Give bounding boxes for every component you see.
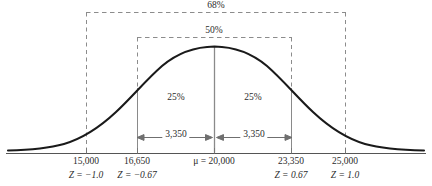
normal-curve (8, 47, 424, 151)
z-label-plus-1: Z = 1.0 (331, 171, 359, 181)
axis-tick-marks (87, 148, 346, 154)
distance-label-left: 3,350 (162, 130, 189, 140)
normal-distribution-figure: 68% 50% 25% 25% 3,350 3,350 15,000 16,65… (0, 0, 432, 186)
axis-tick-label-25000: 25,000 (332, 157, 358, 167)
axis-tick-label-15000: 15,000 (73, 157, 99, 167)
z-label-minus-067: Z = −0.67 (117, 171, 156, 181)
region-label-left-25: 25% (167, 93, 184, 103)
mean-label: μ = 20,000 (193, 157, 234, 167)
distance-label-right: 3,350 (240, 130, 267, 140)
bracket-label-68: 68% (207, 1, 224, 11)
z-label-minus-1: Z = −1.0 (69, 171, 104, 181)
axis-tick-label-23350: 23,350 (278, 157, 304, 167)
z-label-plus-067: Z = 0.67 (274, 171, 307, 181)
axis-tick-label-16650: 16,650 (124, 157, 150, 167)
region-label-right-25: 25% (244, 93, 261, 103)
bracket-label-50: 50% (205, 26, 222, 36)
